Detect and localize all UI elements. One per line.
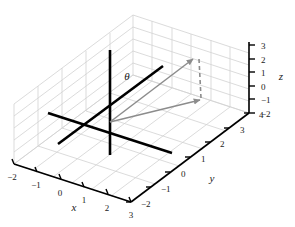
y-axis-label: y xyxy=(209,172,215,184)
projection-connector-dashed xyxy=(199,59,201,98)
three-d-vector-plot: θ −2 −1 0 1 2 3 x xyxy=(0,0,295,227)
y-tick-label: 1 xyxy=(201,154,206,164)
x-axis-label: x xyxy=(71,201,77,213)
z-axis-label: z xyxy=(278,70,284,82)
z-tick-label: −1 xyxy=(261,95,271,105)
z-axis: 3 2 1 0 −1 −2 z xyxy=(249,41,284,119)
x-tick-label: 3 xyxy=(129,210,134,220)
theta-label: θ xyxy=(124,70,130,82)
grid-back-left-wall xyxy=(14,15,133,164)
y-tick-label: 2 xyxy=(220,139,225,149)
x-tick-label: −2 xyxy=(7,172,17,182)
y-tick-label: −1 xyxy=(161,184,171,194)
x-tick-label: −1 xyxy=(31,180,41,190)
y-tick-label: −2 xyxy=(141,199,151,209)
x-tick-label: 0 xyxy=(58,188,63,198)
x-tick-label: 1 xyxy=(82,195,87,205)
x-axis: −2 −1 0 1 2 3 x xyxy=(7,159,134,220)
y-tick-label: 0 xyxy=(181,169,186,179)
y-tick-label: 3 xyxy=(240,125,245,135)
z-tick-label: 0 xyxy=(261,82,266,92)
grid-back-right-wall xyxy=(133,15,249,113)
z-tick-label: 3 xyxy=(261,41,266,51)
z-tick-label: 1 xyxy=(261,68,266,78)
coordinate-axes-bold xyxy=(48,50,172,155)
x-tick-label: 2 xyxy=(105,203,110,213)
z-tick-label: 2 xyxy=(261,55,266,65)
z-tick-label: −2 xyxy=(261,109,271,119)
y-axis: −2 −1 0 1 2 3 4 y xyxy=(126,110,264,209)
